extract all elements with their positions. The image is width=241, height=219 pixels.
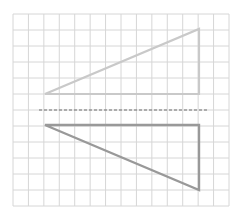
reflection-diagram <box>0 0 241 219</box>
